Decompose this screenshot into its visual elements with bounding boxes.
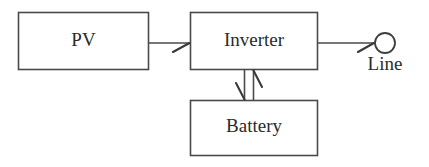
edge-battery-to-inverter bbox=[254, 70, 263, 101]
node-line-terminal-circle[interactable] bbox=[375, 33, 395, 53]
edge-battery-to-inverter-arrowhead-icon bbox=[254, 71, 263, 88]
edge-pv-to-inverter-arrowhead-icon bbox=[173, 43, 190, 52]
edge-inverter-to-line-arrowhead-icon bbox=[358, 43, 374, 52]
node-line-label: Line bbox=[368, 53, 403, 74]
edge-inverter-to-line bbox=[318, 43, 376, 52]
node-pv-label: PV bbox=[71, 29, 96, 50]
edge-inverter-to-battery-arrowhead-icon bbox=[236, 83, 245, 100]
edge-inverter-to-battery bbox=[236, 70, 245, 101]
diagram-canvas: PV Inverter Battery Line bbox=[0, 0, 429, 167]
block-diagram: PV Inverter Battery Line bbox=[0, 0, 429, 167]
node-inverter-label: Inverter bbox=[224, 29, 285, 50]
edge-pv-to-inverter bbox=[149, 43, 191, 52]
node-battery-label: Battery bbox=[226, 115, 282, 136]
